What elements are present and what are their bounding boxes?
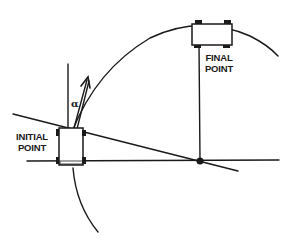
final-robot <box>192 20 232 48</box>
circular-arc-path <box>72 25 278 132</box>
wheel-icon <box>56 129 59 136</box>
wheel-icon <box>82 157 86 164</box>
robot-path-diagram <box>0 0 295 241</box>
initial-point-label-line2: POINT <box>8 142 56 153</box>
wheel-icon <box>82 130 86 136</box>
final-vertical-line <box>199 44 200 161</box>
wheel-icon <box>224 20 231 24</box>
wheel-icon <box>195 20 202 24</box>
final-point-label-line2: POINT <box>201 63 237 74</box>
wheel-icon <box>194 45 201 48</box>
intersection-point <box>197 158 204 165</box>
initial-robot-bar <box>60 161 83 164</box>
final-point-label-line1: FINAL <box>201 52 237 63</box>
wheel-icon <box>56 157 59 164</box>
wheel-icon <box>223 45 230 48</box>
initial-robot <box>56 128 86 165</box>
angle-alpha-label: α <box>71 98 79 109</box>
final-point-label: FINAL POINT <box>201 52 237 74</box>
initial-point-label: INITIAL POINT <box>8 131 56 153</box>
initial-point-label-line1: INITIAL <box>8 131 56 142</box>
lower-arc-path <box>73 168 98 232</box>
